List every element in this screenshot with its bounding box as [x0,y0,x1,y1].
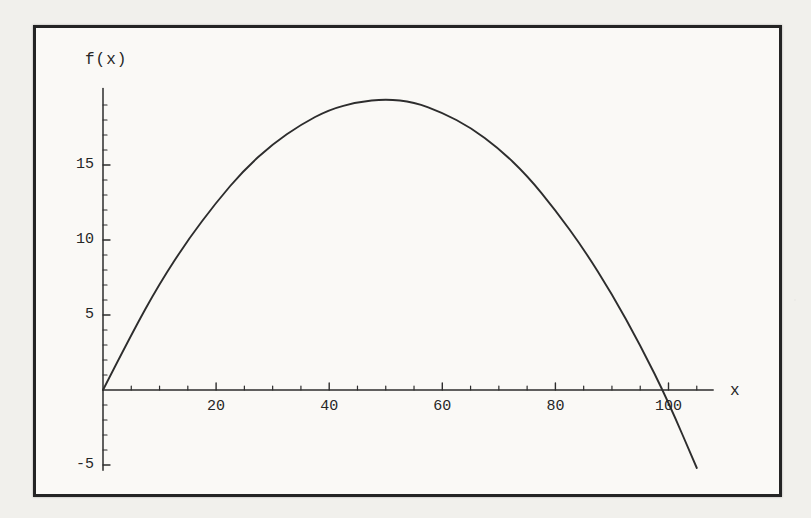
function-curve [103,100,697,468]
y-tick-label: 5 [54,306,94,324]
x-tick-label: 100 [647,398,691,416]
scanned-page: f(x) x 20406080100-551015 [0,0,811,518]
y-tick-label: -5 [54,456,94,474]
x-tick-label: 40 [307,398,351,416]
plot-canvas [36,28,779,494]
x-axis-label: x [730,382,740,400]
plot-frame: f(x) x 20406080100-551015 [33,25,782,497]
y-tick-label: 10 [54,231,94,249]
y-axis-label: f(x) [85,51,127,69]
y-tick-label: 15 [54,156,94,174]
x-tick-label: 80 [533,398,577,416]
x-tick-label: 20 [194,398,238,416]
x-tick-label: 60 [420,398,464,416]
